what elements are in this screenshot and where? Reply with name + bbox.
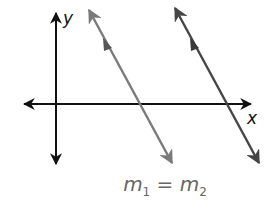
y-axis-label: y xyxy=(62,8,74,28)
line-2 xyxy=(175,8,259,163)
line-1 xyxy=(89,10,172,163)
x-axis-label: x xyxy=(246,108,258,128)
m1-var: m xyxy=(123,172,142,196)
equals-sign: = xyxy=(150,172,179,196)
m2-sub: 2 xyxy=(199,185,207,199)
m2-var: m xyxy=(180,172,199,196)
slope-equality-caption: m1 = m2 xyxy=(0,172,270,199)
